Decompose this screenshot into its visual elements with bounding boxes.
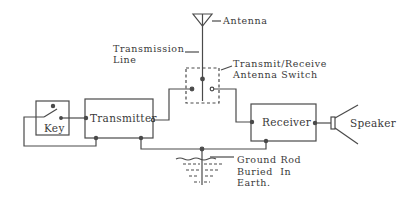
radio-block-diagram: Antenna Transmission Line Transmit/Recei… bbox=[0, 0, 409, 198]
key-label: Key bbox=[44, 122, 65, 134]
wire-switch-receiver bbox=[214, 89, 251, 122]
transmission-line-label: Transmission bbox=[113, 43, 184, 54]
transmission-line-label-2: Line bbox=[113, 54, 137, 65]
speaker-label: Speaker bbox=[350, 117, 397, 129]
switch-label-2: Antenna Switch bbox=[232, 69, 318, 80]
wire-switch-transmitter bbox=[154, 89, 190, 120]
ground-label-2: Buried In bbox=[237, 166, 291, 177]
ground-label-3: Earth. bbox=[237, 177, 271, 188]
ground-rod-icon bbox=[176, 149, 234, 185]
receiver-label: Receiver bbox=[262, 116, 312, 128]
switch-leader bbox=[221, 66, 232, 70]
switch-label: Transmit/Receive bbox=[233, 58, 327, 69]
antenna-label: Antenna bbox=[222, 15, 268, 26]
ground-label-1: Ground Rod bbox=[237, 154, 301, 165]
transmitter-label: Transmitter bbox=[90, 112, 157, 124]
